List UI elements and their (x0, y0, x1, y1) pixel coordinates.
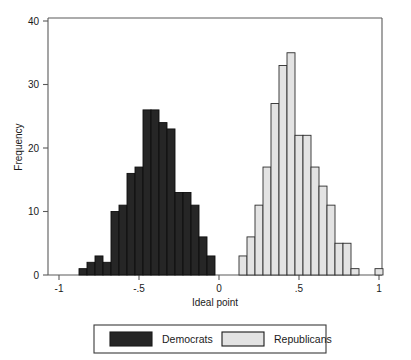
histogram-bar (319, 186, 327, 275)
histogram-bar (191, 205, 199, 275)
x-axis-title: Ideal point (192, 297, 238, 308)
y-axis-title: Frequency (13, 123, 24, 170)
legend-label-republicans: Republicans (274, 333, 332, 345)
histogram-bar (103, 262, 111, 275)
legend-swatch-democrats (110, 332, 152, 346)
histogram-bar (351, 269, 359, 275)
histogram-bar (95, 256, 103, 275)
x-tick-label: -.5 (133, 283, 145, 294)
histogram-bar (159, 123, 167, 275)
histogram-bar (335, 243, 343, 275)
histogram-figure: 010203040 -1-.50.51 Frequency Ideal poin… (0, 0, 411, 360)
histogram-bar (143, 110, 151, 275)
histogram-bar (151, 110, 159, 275)
x-tick-label: -1 (55, 283, 64, 294)
histogram-bar (279, 65, 287, 275)
histogram-bar (311, 167, 319, 275)
x-tick-label: 0 (216, 283, 222, 294)
legend-label-democrats: Democrats (162, 333, 213, 345)
histogram-bar (287, 53, 295, 275)
x-tick-label: 1 (376, 283, 382, 294)
histogram-bar (255, 205, 263, 275)
histogram-bar (295, 135, 303, 275)
y-tick-label: 40 (28, 16, 40, 27)
histogram-bar (111, 212, 119, 276)
histogram-bar (167, 129, 175, 275)
histogram-bar (375, 269, 383, 275)
y-tick-label: 0 (33, 270, 39, 281)
histogram-bar (343, 243, 351, 275)
histogram-bar (327, 205, 335, 275)
histogram-bar (79, 269, 87, 275)
histogram-bar (199, 237, 207, 275)
histogram-bar (119, 205, 127, 275)
y-tick-label: 30 (28, 79, 40, 90)
x-tick-label: .5 (295, 283, 304, 294)
histogram-bar (175, 192, 183, 275)
histogram-bar (207, 256, 215, 275)
histogram-bar (127, 173, 135, 275)
y-tick-label: 20 (28, 143, 40, 154)
histogram-bar (303, 135, 311, 275)
histogram-bar (135, 167, 143, 275)
legend-swatch-republicans (222, 332, 264, 346)
histogram-bar (239, 256, 247, 275)
y-tick-label: 10 (28, 206, 40, 217)
histogram-bar (271, 104, 279, 275)
histogram-bar (247, 237, 255, 275)
histogram-bar (87, 262, 95, 275)
histogram-bar (263, 167, 271, 275)
histogram-bar (183, 192, 191, 275)
